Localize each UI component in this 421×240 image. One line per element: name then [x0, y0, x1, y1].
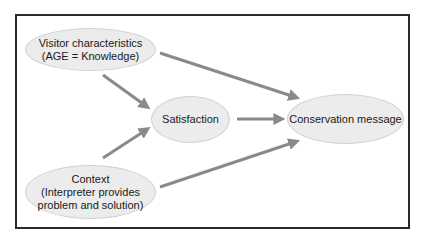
- node-conservation-message: Conservation message: [287, 94, 404, 144]
- node-label-line: Visitor characteristics: [39, 37, 143, 50]
- node-label-line: (Interpreter provides: [38, 186, 144, 199]
- node-context: Context (Interpreter provides problem an…: [25, 165, 156, 219]
- node-label-line: Context: [38, 173, 144, 186]
- node-visitor-characteristics: Visitor characteristics (AGE = Knowledge…: [25, 28, 156, 71]
- node-label-line: problem and solution): [38, 199, 144, 212]
- node-label-line: Conservation message: [289, 113, 402, 126]
- node-satisfaction: Satisfaction: [151, 96, 230, 143]
- node-label-line: (AGE = Knowledge): [39, 50, 143, 63]
- node-label-line: Satisfaction: [162, 113, 219, 126]
